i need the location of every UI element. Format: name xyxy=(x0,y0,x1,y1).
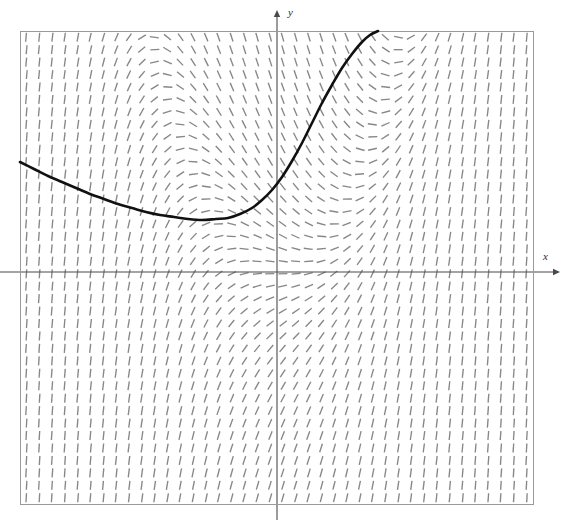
slope-dash xyxy=(39,307,40,316)
slope-dash xyxy=(526,70,527,79)
slope-dash xyxy=(26,456,27,465)
slope-dash xyxy=(526,95,527,104)
slope-dash xyxy=(462,394,463,403)
slope-dash xyxy=(526,83,527,92)
slope-dash xyxy=(39,257,40,266)
slope-dash xyxy=(501,481,502,490)
slope-dash xyxy=(65,481,66,490)
slope-dash xyxy=(475,468,476,477)
slope-dash xyxy=(317,236,326,237)
slope-dash xyxy=(488,331,489,340)
slope-dash xyxy=(488,307,489,316)
slope-dash xyxy=(52,406,53,415)
slope-dash xyxy=(500,331,501,340)
slope-dash xyxy=(78,431,79,440)
slope-dash xyxy=(103,431,104,440)
slope-dash xyxy=(381,99,390,100)
slope-dash xyxy=(514,45,515,54)
slope-dash xyxy=(304,261,313,262)
slope-dash xyxy=(103,481,104,490)
slope-dash xyxy=(39,381,40,390)
slope-dash xyxy=(39,244,40,253)
slope-dash xyxy=(77,381,78,390)
slope-dash xyxy=(52,419,53,428)
slope-dash xyxy=(527,431,528,440)
slope-dash xyxy=(39,157,40,166)
slope-dash xyxy=(462,493,463,502)
slope-dash xyxy=(487,481,488,490)
slope-dash xyxy=(39,444,40,453)
slope-dash xyxy=(26,207,27,216)
slope-dash xyxy=(488,369,489,378)
slope-dash xyxy=(52,444,53,453)
slope-dash xyxy=(527,120,528,129)
slope-dash xyxy=(39,319,40,328)
slope-dash xyxy=(51,431,52,440)
slope-dash xyxy=(449,468,450,477)
slope-dash xyxy=(487,294,488,303)
slope-dash xyxy=(52,257,53,266)
slope-dash xyxy=(513,282,514,291)
slope-dash xyxy=(514,107,515,116)
slope-dash xyxy=(487,257,488,266)
slope-dash xyxy=(488,431,489,440)
slope-dash xyxy=(26,493,27,502)
slope-dash xyxy=(526,443,527,452)
slope-dash xyxy=(527,182,528,191)
slope-dash xyxy=(526,195,527,204)
slope-dash xyxy=(526,219,527,228)
slope-dash xyxy=(501,319,502,328)
slope-dash xyxy=(513,344,514,353)
slope-dash xyxy=(487,356,488,365)
slope-dash xyxy=(526,232,527,241)
slope-dash xyxy=(514,207,515,216)
slope-dash xyxy=(526,331,527,340)
slope-dash xyxy=(26,145,27,154)
slope-dash xyxy=(90,456,91,465)
slope-dash xyxy=(462,456,463,465)
slope-dash xyxy=(501,219,502,228)
slope-dash xyxy=(527,58,528,67)
slope-dash xyxy=(26,369,27,378)
slope-dash xyxy=(488,219,489,228)
slope-dash xyxy=(77,419,78,428)
slope-dash xyxy=(39,456,40,465)
slope-dash xyxy=(26,344,27,353)
slope-dash xyxy=(292,273,301,274)
slope-dash xyxy=(64,319,65,328)
slope-dash xyxy=(65,356,66,365)
slope-dash xyxy=(52,319,53,328)
slope-dash xyxy=(65,493,66,502)
slope-dash xyxy=(513,444,514,453)
slope-dash xyxy=(90,381,91,390)
slope-dash xyxy=(26,45,27,54)
slope-dash xyxy=(355,174,364,175)
slope-dash xyxy=(500,170,501,179)
slope-dash xyxy=(500,431,501,440)
slope-dash xyxy=(52,132,53,141)
slope-dash xyxy=(51,120,52,129)
slope-dash xyxy=(513,219,514,228)
slope-dash xyxy=(26,70,27,79)
slope-dash xyxy=(51,145,52,154)
slope-dash xyxy=(64,381,65,390)
slope-dash xyxy=(513,120,514,129)
slope-dash xyxy=(52,232,53,241)
slope-dash xyxy=(39,120,40,129)
slope-dash xyxy=(39,83,40,92)
slope-dash xyxy=(513,307,514,316)
slope-dash xyxy=(26,170,27,179)
slope-dash xyxy=(501,406,502,415)
slope-dash xyxy=(90,406,91,415)
slope-dash xyxy=(176,136,185,137)
slope-dash xyxy=(475,493,476,502)
slope-dash xyxy=(475,331,476,340)
slope-dash xyxy=(527,468,528,477)
slope-dash xyxy=(475,431,476,440)
slope-dash xyxy=(26,307,27,316)
slope-dash xyxy=(488,456,489,465)
slope-dash xyxy=(39,493,40,502)
slope-dash xyxy=(77,331,78,340)
slope-dash xyxy=(513,319,514,328)
slope-dash xyxy=(51,369,52,378)
